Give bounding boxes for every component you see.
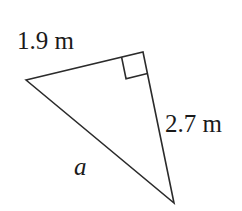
label-right-leg: 2.7 m [165, 111, 222, 136]
label-upper-leg: 1.9 m [17, 28, 74, 53]
label-hypotenuse: a [74, 154, 87, 179]
